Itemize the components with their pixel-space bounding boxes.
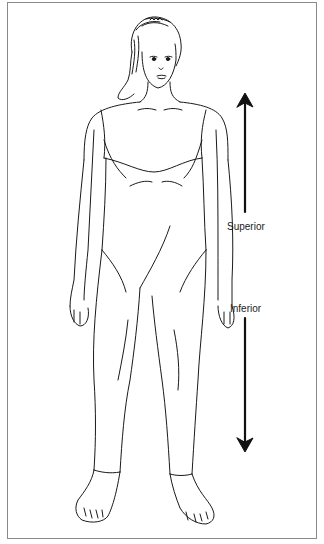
torso	[84, 102, 228, 292]
inferior-arrow	[237, 318, 253, 452]
superior-label: Superior	[227, 221, 265, 232]
neck	[138, 82, 182, 110]
superior-arrow	[237, 93, 253, 212]
legs	[93, 250, 206, 476]
hair	[118, 17, 181, 100]
face	[142, 44, 176, 88]
inferior-label: Inferior	[230, 303, 261, 314]
human-figure-drawing	[0, 0, 324, 544]
feet	[76, 470, 214, 524]
